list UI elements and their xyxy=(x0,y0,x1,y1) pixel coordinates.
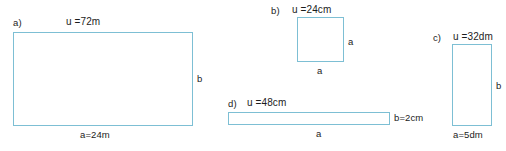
figure-c-height-label: b xyxy=(496,81,501,91)
figure-d-height-label: b=2cm xyxy=(394,113,423,123)
figure-c-tag: c) xyxy=(433,33,441,43)
figure-c-rectangle xyxy=(452,44,492,126)
figure-c-width-label: a=5dm xyxy=(453,130,483,140)
figure-a-perimeter-label: u =72m xyxy=(66,17,100,27)
figure-b-width-label: a xyxy=(317,66,322,76)
figure-a-height-label: b xyxy=(197,74,202,84)
figure-b-tag: b) xyxy=(271,6,280,16)
figure-d-tag: d) xyxy=(228,99,237,109)
figure-a-rectangle xyxy=(13,32,193,126)
figure-b-square xyxy=(297,17,344,62)
figure-a-width-label: a=24m xyxy=(80,130,110,140)
figure-d-rectangle xyxy=(228,112,390,125)
figure-a-tag: a) xyxy=(13,18,22,28)
figure-d-width-label: a xyxy=(316,129,321,139)
worksheet-canvas: a) u =72m b a=24m b) u =24cm a a c) u =3… xyxy=(0,0,506,151)
figure-c-perimeter-label: u =32dm xyxy=(453,32,493,42)
figure-b-perimeter-label: u =24cm xyxy=(292,5,331,15)
figure-b-height-label: a xyxy=(348,37,353,47)
figure-d-perimeter-label: u =48cm xyxy=(247,98,286,108)
